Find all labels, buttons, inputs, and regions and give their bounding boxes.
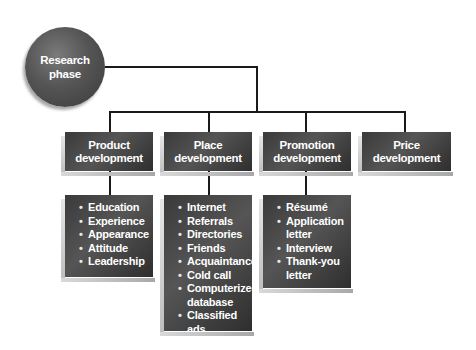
promotion-items-list: Résumé Application letter Interview Than… [277, 201, 343, 282]
place-items-list: Internet Referrals Directories Friends A… [178, 201, 244, 336]
connector-place-down [208, 111, 210, 132]
place-development-label-line2: development [174, 152, 242, 165]
list-item: Classified ads [178, 309, 244, 336]
list-item: Appearance [79, 228, 145, 242]
list-item: Application letter [277, 215, 343, 242]
list-item: Computerized database [178, 282, 244, 309]
list-item: Referrals [178, 215, 244, 229]
price-development-label-line2: development [373, 152, 441, 165]
research-phase-label-line1: Research [40, 53, 89, 67]
product-items-box: Education Experience Appearance Attitude… [65, 195, 153, 277]
place-items-box: Internet Referrals Directories Friends A… [164, 195, 252, 331]
connector-promotion-down [305, 111, 307, 132]
connector-product-down [109, 111, 111, 132]
list-item: Internet [178, 201, 244, 215]
promotion-development-box: Promotion development [263, 132, 351, 171]
promotion-development-label-line1: Promotion [273, 139, 341, 152]
product-items-list: Education Experience Appearance Attitude… [79, 201, 145, 269]
connector-branch-horizontal [109, 111, 406, 113]
price-development-box: Price development [362, 132, 451, 171]
product-development-box: Product development [65, 132, 153, 171]
list-item: Education [79, 201, 145, 215]
product-development-label-line1: Product [75, 139, 143, 152]
price-development-label-line1: Price [373, 139, 441, 152]
promotion-development-label-line2: development [273, 152, 341, 165]
promotion-items-box: Résumé Application letter Interview Than… [263, 195, 351, 288]
list-item: Leadership [79, 255, 145, 269]
research-phase-label-line2: phase [40, 67, 89, 81]
product-development-label-line2: development [75, 152, 143, 165]
list-item: Interview [277, 242, 343, 256]
research-phase-node: Research phase [25, 27, 105, 107]
list-item: Attitude [79, 242, 145, 256]
list-item: Experience [79, 215, 145, 229]
place-development-label-line1: Place [174, 139, 242, 152]
list-item: Cold call [178, 269, 244, 283]
list-item: Résumé [277, 201, 343, 215]
list-item: Directories [178, 228, 244, 242]
connector-root-horizontal [105, 66, 258, 68]
list-item: Thank-you letter [277, 255, 343, 282]
list-item: Acquaintances [178, 255, 244, 269]
connector-price-down [404, 111, 406, 132]
list-item: Friends [178, 242, 244, 256]
connector-root-vertical [256, 66, 258, 113]
place-development-box: Place development [164, 132, 252, 171]
